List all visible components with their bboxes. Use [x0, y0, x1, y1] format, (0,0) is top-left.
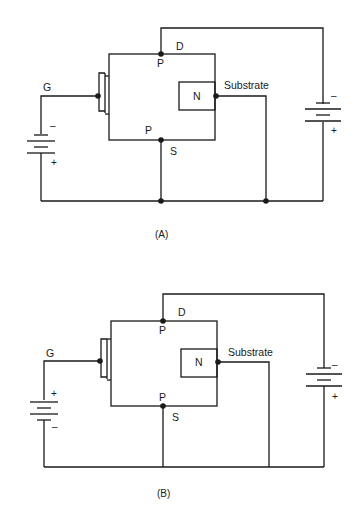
source-label-a: S	[170, 145, 177, 157]
drain-battery-bottom-sign-a: +	[331, 125, 337, 136]
drain-region-label-a: P	[157, 57, 164, 69]
source-label-b: S	[172, 411, 179, 423]
figure-b: G D P P S N Substrate + – – + (B)	[30, 294, 342, 499]
drain-wire-a	[161, 28, 323, 104]
drain-battery-bottom-sign-b: +	[332, 391, 338, 402]
drain-battery-top-sign-b: –	[332, 359, 338, 370]
figure-caption-b: (B)	[157, 488, 170, 499]
gate-battery-b	[30, 402, 58, 420]
substrate-node-b	[215, 359, 221, 365]
gate-battery-top-sign-b: +	[51, 388, 57, 399]
substrate-wire-a	[216, 96, 266, 201]
gate-battery-top-sign-a: –	[50, 120, 56, 131]
gate-label-a: G	[43, 81, 51, 93]
drain-label-b: D	[178, 306, 186, 318]
mosfet-bias-diagram: G D P P S N Substrate – + – + (A)	[0, 0, 359, 509]
gate-label-b: G	[46, 347, 54, 359]
figure-caption-a: (A)	[155, 229, 168, 240]
gate-battery-bottom-sign-b: –	[52, 421, 58, 432]
drain-region-label-b: P	[159, 324, 166, 336]
gate-battery-a	[27, 135, 55, 153]
gate-battery-bottom-sign-a: +	[51, 157, 57, 168]
substrate-node-a	[213, 93, 219, 99]
gate-node-a	[95, 93, 101, 99]
source-region-label-a: P	[145, 124, 152, 136]
drain-battery-a	[305, 103, 341, 121]
source-node-b	[160, 403, 166, 409]
n-region-label-a: N	[193, 90, 201, 102]
source-node-a	[158, 137, 164, 143]
drain-battery-b	[306, 368, 342, 386]
gate-node-b	[97, 358, 103, 364]
drain-node-b	[160, 318, 166, 324]
substrate-wire-b	[218, 362, 269, 467]
drain-battery-top-sign-a: –	[331, 90, 337, 101]
drain-label-a: D	[176, 40, 184, 52]
figure-a: G D P P S N Substrate – + – + (A)	[27, 28, 341, 240]
gate-plate-a	[99, 73, 105, 111]
substrate-label-a: Substrate	[224, 79, 269, 91]
ground-node-substrate-a	[263, 198, 269, 204]
source-region-label-b: P	[159, 391, 166, 403]
gate-plate-b	[101, 339, 107, 377]
drain-node-a	[158, 51, 164, 57]
n-region-label-b: N	[195, 356, 203, 368]
substrate-label-b: Substrate	[228, 346, 273, 358]
ground-node-source-a	[158, 198, 164, 204]
